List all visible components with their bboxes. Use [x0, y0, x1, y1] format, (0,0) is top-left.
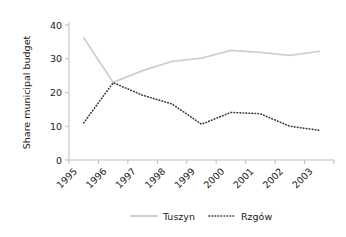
- series-line-rzgów: [84, 83, 320, 131]
- y-axis-title: Share municipal budget: [21, 36, 32, 150]
- x-tick-label: 2001: [231, 166, 256, 191]
- x-tick-label: 1998: [143, 166, 168, 191]
- x-tick-label: 1995: [54, 166, 79, 191]
- x-tick-label: 1996: [84, 166, 109, 191]
- x-tick-label: 2002: [260, 166, 285, 191]
- series-line-tuszyn: [84, 38, 320, 83]
- x-tick-label: 1999: [172, 166, 197, 191]
- legend-label: Rzgów: [241, 211, 272, 222]
- x-tick-label: 1997: [113, 166, 138, 191]
- legend-entry-tuszyn: Tuszyn: [131, 211, 195, 222]
- y-tick-label: 10: [50, 121, 62, 132]
- y-tick-label: 20: [50, 87, 62, 98]
- x-tick-label: 2003: [290, 166, 315, 191]
- legend-entry-rzgów: Rzgów: [209, 211, 272, 222]
- y-tick-label: 40: [50, 20, 62, 31]
- chart-container: 0102030401995199619971998199920002001200…: [0, 0, 346, 237]
- legend-label: Tuszyn: [162, 211, 195, 222]
- line-chart: 0102030401995199619971998199920002001200…: [0, 0, 346, 237]
- y-tick-label: 0: [56, 155, 62, 166]
- x-tick-label: 2000: [201, 166, 226, 191]
- y-tick-label: 30: [50, 53, 62, 64]
